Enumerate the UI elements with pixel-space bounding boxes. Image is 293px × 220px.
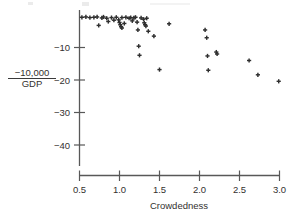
data-point	[97, 23, 101, 27]
data-point	[114, 15, 118, 19]
x-tick-label-0.5: 0.5	[73, 184, 86, 195]
data-point	[146, 29, 150, 33]
data-point	[205, 36, 209, 40]
data-point	[256, 73, 260, 77]
data-point	[167, 22, 171, 26]
data-point	[137, 53, 141, 57]
data-point	[135, 20, 139, 24]
scatter-plot-figure: −10,000 GDP −10 −20 −30 −40 0.5 1.0 1.5	[0, 0, 293, 220]
y-tick-label--20: −20	[54, 75, 70, 86]
data-point	[247, 58, 251, 62]
x-axis-title: Crowdedness	[150, 200, 208, 211]
y-tick-label--10: −10	[54, 42, 70, 53]
x-tick-label-1.5: 1.5	[153, 184, 166, 195]
data-point	[205, 54, 209, 58]
x-tick-label-1.0: 1.0	[113, 184, 126, 195]
data-point	[137, 44, 141, 48]
x-tick-label-2.5: 2.5	[233, 184, 246, 195]
data-point	[120, 16, 124, 20]
x-tick-label-3.0: 3.0	[273, 184, 286, 195]
data-point	[203, 28, 207, 32]
data-point	[84, 15, 88, 19]
data-point	[206, 68, 210, 72]
data-point	[157, 68, 161, 72]
data-point	[136, 28, 140, 32]
data-point	[80, 15, 84, 19]
y-tick-label--40: −40	[54, 140, 70, 151]
x-tick-label-2.0: 2.0	[193, 184, 206, 195]
data-point	[95, 15, 99, 19]
data-point	[112, 18, 116, 22]
data-point	[122, 21, 126, 25]
y-tick-label--30: −30	[54, 107, 70, 118]
data-point	[88, 16, 92, 20]
data-point	[152, 34, 156, 38]
data-point	[277, 79, 281, 83]
data-point	[109, 16, 113, 20]
data-point-layer	[80, 15, 281, 84]
plot-canvas: −10 −20 −30 −40 0.5 1.0 1.5 2.0 2.5 3.0 …	[0, 0, 293, 220]
